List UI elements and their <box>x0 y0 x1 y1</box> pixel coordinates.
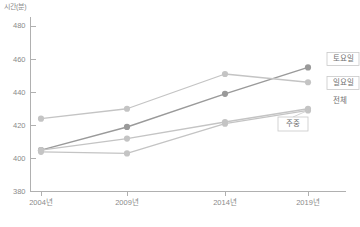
series-polyline <box>41 67 308 150</box>
legend-item-주중[interactable]: 주중 <box>278 110 308 131</box>
data-point-marker <box>124 106 130 112</box>
data-point-marker <box>222 71 228 77</box>
data-point-marker <box>38 149 44 155</box>
legend-label-text: 일요일 <box>333 78 354 87</box>
y-axis-title: 시간(분) <box>4 2 27 11</box>
series-polyline <box>41 110 308 153</box>
legend-item-토요일[interactable]: 토요일 <box>327 53 359 66</box>
data-point-marker <box>305 79 311 85</box>
data-point-marker <box>124 135 130 141</box>
y-axis-title-text: 시간(분) <box>4 2 27 11</box>
line-chart: 시간(분) 380400420440460480 2004년2009년2014년… <box>0 0 360 227</box>
series-polyline <box>41 109 308 150</box>
x-axis: 2004년2009년2014년2019년 <box>29 192 346 207</box>
y-tick-label: 400 <box>13 154 26 163</box>
x-tick-label: 2009년 <box>115 197 139 207</box>
data-point-marker <box>305 64 311 70</box>
data-point-marker <box>222 121 228 127</box>
legend-label-text: 토요일 <box>333 54 354 63</box>
y-axis: 380400420440460480 <box>13 17 36 196</box>
data-point-marker <box>124 124 130 130</box>
series-토요일 <box>38 64 311 153</box>
legend-item-전체[interactable]: 전체 <box>333 95 347 105</box>
data-point-marker <box>38 116 44 122</box>
y-tick-label: 480 <box>13 21 26 30</box>
y-tick-label: 420 <box>13 121 26 130</box>
series-전체 <box>38 106 311 154</box>
y-tick-label: 440 <box>13 88 26 97</box>
y-tick-label: 460 <box>13 55 26 64</box>
legend-label-text: 전체 <box>333 95 347 105</box>
x-tick-label: 2014년 <box>213 197 237 207</box>
y-tick-label: 380 <box>13 187 26 196</box>
x-tick-label: 2004년 <box>29 197 53 207</box>
chart-canvas: 시간(분) 380400420440460480 2004년2009년2014년… <box>0 0 360 227</box>
legend-label-text: 주중 <box>286 119 300 128</box>
x-tick-label: 2019년 <box>296 197 320 207</box>
legend-item-일요일[interactable]: 일요일 <box>327 77 359 90</box>
data-point-marker <box>124 150 130 156</box>
series-lines <box>38 64 311 156</box>
data-point-marker <box>222 91 228 97</box>
chart-legend: 토요일일요일전체주중 <box>278 53 359 132</box>
